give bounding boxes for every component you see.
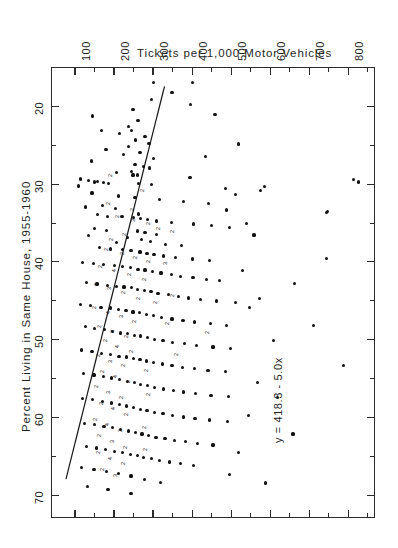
scatter-point — [171, 414, 174, 417]
multiplicity-label: 2 — [119, 252, 125, 255]
multiplicity-label: 4 — [111, 269, 117, 272]
scatter-point — [211, 345, 214, 348]
scatter-point — [117, 355, 120, 358]
multiplicity-label: 2 — [145, 260, 151, 263]
scatter-point — [100, 129, 103, 132]
multiplicity-label: 2 — [99, 370, 105, 373]
scatter-point — [181, 366, 184, 369]
scatter-point — [107, 182, 110, 185]
scatter-point — [138, 311, 141, 314]
scatter-point — [152, 81, 155, 84]
scatter-point — [147, 142, 150, 145]
scatter-point — [193, 320, 196, 323]
scatter-point — [312, 324, 315, 327]
scatter-point — [170, 364, 173, 367]
multiplicity-label: 4 — [105, 311, 111, 314]
scatter-point — [159, 481, 162, 484]
scatter-point — [225, 324, 228, 327]
scatter-point — [143, 135, 146, 138]
scatter-point — [133, 163, 136, 166]
scatter-point — [145, 409, 148, 412]
scatter-point — [228, 473, 231, 476]
top-tick-label-200: 200 — [119, 41, 131, 61]
scatter-point — [152, 253, 155, 256]
scatter-point — [215, 299, 218, 302]
multiplicity-label: 2 — [118, 396, 124, 399]
scatter-point — [139, 217, 142, 220]
scatter-point — [129, 453, 132, 456]
scatter-point — [95, 446, 98, 449]
scatter-point — [84, 325, 87, 328]
multiplicity-label: 2 — [132, 256, 138, 259]
scatter-point — [177, 295, 180, 298]
scatter-point — [150, 98, 153, 101]
scatter-point — [136, 229, 139, 232]
scatter-point — [173, 439, 176, 442]
scatter-point — [293, 282, 296, 285]
scatter-point — [161, 339, 164, 342]
multiplicity-label: 2 — [103, 248, 109, 251]
scatter-point — [152, 314, 155, 317]
scatter-point — [218, 279, 221, 282]
scatter-point — [149, 240, 152, 243]
scatter-point — [276, 396, 279, 399]
scatter-point — [136, 268, 139, 271]
scatter-point — [106, 488, 109, 491]
multiplicity-label: 4 — [104, 423, 110, 426]
scatter-point — [237, 142, 240, 145]
scatter-point — [85, 445, 88, 448]
scatter-point — [199, 298, 202, 301]
scatter-point — [125, 355, 128, 358]
scatter-point — [129, 474, 132, 477]
scatter-point — [146, 384, 149, 387]
scatter-point — [164, 243, 167, 246]
scatter-point — [121, 265, 124, 268]
scatter-point — [158, 459, 161, 462]
left-tick-label-70: 70 — [33, 490, 45, 503]
scatter-point — [114, 207, 117, 210]
multiplicity-label: 2 — [131, 320, 137, 323]
multiplicity-label: 2 — [123, 413, 129, 416]
left-tick-label-40: 40 — [33, 257, 45, 270]
y-axis-title: Percent Living in Same House, 1955-1960 — [20, 181, 32, 432]
multiplicity-label: 2 — [93, 283, 99, 286]
multiplicity-label: 2 — [123, 335, 129, 338]
scatter-point — [140, 238, 143, 241]
scatter-point — [153, 386, 156, 389]
scatter-point — [188, 176, 191, 179]
scatter-point — [79, 303, 82, 306]
scatter-point — [138, 358, 141, 361]
data-layer: 2223222222222422232222432232242232242232… — [51, 67, 375, 518]
scatter-point — [352, 178, 355, 181]
scatter-point — [103, 328, 106, 331]
scatter-point — [147, 434, 150, 437]
scatter-point — [101, 204, 104, 207]
scatter-point — [93, 227, 96, 230]
scatter-point — [132, 406, 135, 409]
scatter-plot-figure: Tickets per 1,000 Motor Vehicles 1002003… — [0, 0, 398, 548]
scatter-point — [115, 171, 118, 174]
scatter-point — [139, 383, 142, 386]
scatter-point — [87, 234, 90, 237]
scatter-point — [136, 119, 139, 122]
scatter-point — [172, 389, 175, 392]
scatter-point — [161, 412, 164, 415]
scatter-point — [170, 273, 173, 276]
scatter-point — [170, 317, 173, 320]
scatter-point — [93, 423, 96, 426]
scatter-point — [140, 432, 143, 435]
scatter-point — [191, 276, 194, 279]
scatter-point — [205, 278, 208, 281]
multiplicity-label: 2 — [141, 278, 147, 281]
multiplicity-label: 3 — [118, 315, 124, 318]
multiplicity-label: 4 — [112, 375, 118, 378]
scatter-point — [191, 81, 194, 84]
scatter-point — [115, 241, 118, 244]
scatter-point — [143, 289, 146, 292]
left-tick-label-30: 30 — [33, 179, 45, 192]
multiplicity-label: 2 — [96, 434, 102, 437]
scatter-point — [326, 210, 329, 213]
scatter-point — [225, 208, 228, 211]
scatter-point — [237, 451, 240, 454]
scatter-point — [92, 373, 95, 376]
